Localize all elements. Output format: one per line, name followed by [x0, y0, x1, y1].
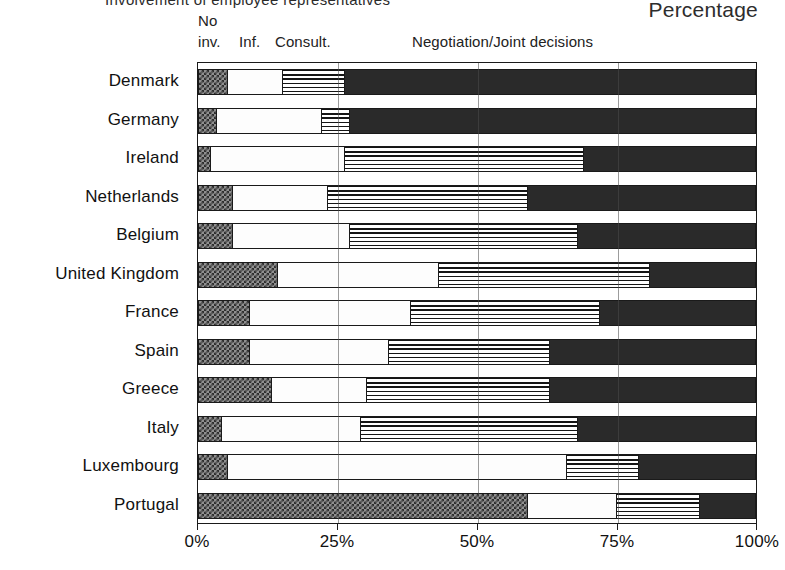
- y-axis-label-united-kingdom: United Kingdom: [55, 255, 179, 294]
- bar-segment-negotiation-joint-decisions: [699, 494, 755, 518]
- bar-segment-negotiation-joint-decisions: [349, 109, 755, 133]
- bar-segment-inf: [232, 224, 349, 248]
- bar-row: [198, 371, 756, 410]
- bar-row: [198, 140, 756, 179]
- bar-segment-negotiation-joint-decisions: [344, 70, 755, 94]
- bar-segment-no-inv: [199, 455, 227, 479]
- bar-segment-consult: [349, 224, 577, 248]
- legend-label-no: No: [198, 12, 217, 29]
- bar-segment-inf: [221, 417, 360, 441]
- bar-row: [198, 448, 756, 487]
- y-axis-label-spain: Spain: [135, 332, 179, 371]
- gridline: [478, 63, 479, 523]
- y-axis-labels: DenmarkGermanyIrelandNetherlandsBelgiumU…: [0, 62, 188, 524]
- bar-segment-inf: [210, 147, 343, 171]
- stacked-bar: [198, 185, 756, 211]
- bar-segment-consult: [282, 70, 343, 94]
- x-axis-tick-label: 25%: [320, 532, 355, 552]
- bar-row: [198, 179, 756, 218]
- bar-segment-inf: [277, 263, 438, 287]
- legend-label-inf: Inf.: [239, 33, 260, 50]
- legend-label-no-inv: inv.: [198, 33, 221, 50]
- gridline: [338, 63, 339, 523]
- bar-segment-consult: [410, 301, 599, 325]
- bar-row: [198, 63, 756, 102]
- stacked-bar: [198, 262, 756, 288]
- bar-segment-consult: [321, 109, 349, 133]
- bar-row: [198, 102, 756, 141]
- bar-segment-consult: [566, 455, 638, 479]
- bar-segment-consult: [616, 494, 699, 518]
- x-axis-tick-label: 100%: [735, 532, 779, 552]
- bar-segment-inf: [232, 186, 327, 210]
- chart-title: Involvement of employee representatives: [105, 0, 390, 8]
- bar-segment-consult: [344, 147, 583, 171]
- legend-label-consult: Consult.: [275, 33, 331, 50]
- bar-segment-inf: [227, 70, 283, 94]
- bar-segment-no-inv: [199, 417, 221, 441]
- bar-row: [198, 256, 756, 295]
- bar-segment-negotiation-joint-decisions: [527, 186, 755, 210]
- x-axis-tick-label: 75%: [600, 532, 635, 552]
- bar-segment-no-inv: [199, 147, 210, 171]
- bar-row: [198, 333, 756, 372]
- bar-segment-negotiation-joint-decisions: [599, 301, 755, 325]
- bar-segment-negotiation-joint-decisions: [549, 378, 755, 402]
- plot-area: [197, 62, 757, 524]
- bar-segment-negotiation-joint-decisions: [649, 263, 755, 287]
- bar-segment-negotiation-joint-decisions: [638, 455, 755, 479]
- bar-segment-inf: [249, 301, 410, 325]
- bar-segment-negotiation-joint-decisions: [577, 224, 755, 248]
- y-axis-label-denmark: Denmark: [109, 62, 179, 101]
- bar-segment-negotiation-joint-decisions: [549, 340, 755, 364]
- bar-segment-inf: [249, 340, 388, 364]
- bar-segment-no-inv: [199, 186, 232, 210]
- stacked-bar: [198, 339, 756, 365]
- x-axis-tick: [617, 524, 618, 530]
- x-axis: 0%25%50%75%100%: [197, 524, 757, 564]
- bar-segment-consult: [360, 417, 577, 441]
- stacked-bar: [198, 146, 756, 172]
- bar-segment-consult: [327, 186, 527, 210]
- x-axis-tick: [337, 524, 338, 530]
- stacked-bar: [198, 377, 756, 403]
- bar-row: [198, 487, 756, 526]
- legend-label-negotiation: Negotiation/Joint decisions: [412, 33, 593, 50]
- y-axis-label-luxembourg: Luxembourg: [82, 447, 179, 486]
- x-axis-tick: [197, 524, 198, 530]
- bar-segment-no-inv: [199, 109, 216, 133]
- y-axis-label-greece: Greece: [122, 370, 179, 409]
- y-axis-label-italy: Italy: [147, 409, 179, 448]
- bar-segment-inf: [216, 109, 322, 133]
- bar-row: [198, 294, 756, 333]
- y-axis-label-ireland: Ireland: [126, 139, 179, 178]
- bar-rows: [198, 63, 756, 523]
- bar-segment-inf: [227, 455, 566, 479]
- x-axis-tick: [756, 524, 757, 530]
- stacked-bar: [198, 223, 756, 249]
- bar-segment-no-inv: [199, 224, 232, 248]
- x-axis-tick: [477, 524, 478, 530]
- x-axis-tick-label: 50%: [460, 532, 495, 552]
- bar-segment-consult: [388, 340, 549, 364]
- bar-segment-consult: [366, 378, 549, 402]
- y-axis-label-france: France: [125, 293, 179, 332]
- bar-segment-no-inv: [199, 70, 227, 94]
- bar-segment-inf: [271, 378, 366, 402]
- bar-segment-negotiation-joint-decisions: [583, 147, 755, 171]
- bar-row: [198, 217, 756, 256]
- bar-segment-negotiation-joint-decisions: [577, 417, 755, 441]
- bar-segment-inf: [527, 494, 616, 518]
- gridline: [618, 63, 619, 523]
- stacked-bar: [198, 300, 756, 326]
- stacked-bar: [198, 493, 756, 519]
- y-axis-label-germany: Germany: [108, 101, 179, 140]
- bar-segment-no-inv: [199, 378, 271, 402]
- stacked-bar: [198, 108, 756, 134]
- stacked-bar: [198, 416, 756, 442]
- bar-row: [198, 410, 756, 449]
- stacked-bar-chart: Involvement of employee representatives …: [0, 0, 785, 570]
- y-axis-label-belgium: Belgium: [116, 216, 179, 255]
- stacked-bar: [198, 69, 756, 95]
- stacked-bar: [198, 454, 756, 480]
